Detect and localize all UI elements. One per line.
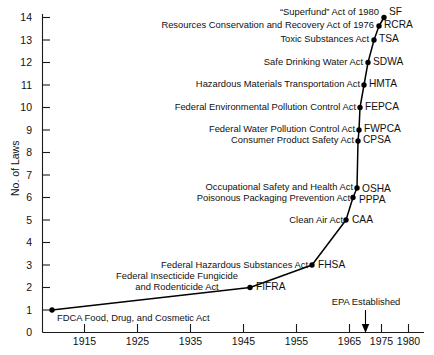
abbrev-rcra: RCRA [384, 20, 413, 31]
y-tick-label-5: 5 [12, 215, 32, 225]
abbrev-fwpca: FWPCA [364, 124, 401, 135]
annotation-fifra-line2: and Rodenticide Act [135, 281, 218, 292]
annotation-fifra: Federal Insecticide Fungicide and Rodent… [110, 271, 244, 292]
y-tick-label-12: 12 [12, 57, 32, 67]
epa-established-arrow [362, 310, 369, 333]
annotation-sdwa: Safe Drinking Water Act [264, 57, 363, 68]
abbrev-tsa: TSA [379, 34, 399, 45]
x-tick-label-1915: 1915 [63, 336, 107, 347]
abbrev-hmta: HMTA [369, 79, 397, 90]
annotation-caa: Clean Air Act [289, 215, 343, 226]
annotation-superfund: “Superfund” Act of 1980 [280, 7, 379, 18]
abbrev-osha: OSHA [362, 184, 391, 195]
y-axis-title: No. of Laws [9, 141, 21, 196]
y-tick-label-2: 2 [12, 282, 32, 292]
annotation-cpsa: Consumer Product Safety Act [231, 135, 354, 146]
x-tick-label-1945: 1945 [222, 336, 266, 347]
annotation-osha: Occupational Safety and Health Act [206, 182, 354, 193]
y-axis-ticks [43, 18, 51, 311]
annotation-tsa: Toxic Substances Act [280, 34, 369, 45]
y-tick-label-0: 0 [12, 327, 32, 337]
x-tick-label-1935: 1935 [169, 336, 213, 347]
y-tick-label-10: 10 [12, 102, 32, 112]
annotation-pppa: Poisonous Packaging Prevention Act [197, 193, 350, 204]
y-tick-label-13: 13 [12, 35, 32, 45]
abbrev-fifra: FIFRA [256, 282, 285, 293]
abbrev-pppa: PPPA [359, 195, 385, 206]
abbrev-caa: CAA [352, 215, 373, 226]
y-tick-label-11: 11 [12, 80, 32, 90]
y-tick-label-9: 9 [12, 125, 32, 135]
x-tick-label-1980: 1980 [387, 336, 431, 347]
x-tick-label-1955: 1955 [275, 336, 319, 347]
annotation-hmta: Hazardous Materials Transportation Act [196, 79, 360, 90]
annotation-epa-established: EPA Established [300, 297, 432, 308]
environmental-laws-line-chart: 14 13 12 11 10 9 8 7 6 5 4 3 2 1 0 No. o… [0, 0, 434, 355]
abbrev-sdwa: SDWA [373, 57, 403, 68]
x-tick-label-1925: 1925 [116, 336, 160, 347]
abbrev-sf: SF [389, 7, 402, 18]
annotation-fifra-line1: Federal Insecticide Fungicide [116, 270, 238, 281]
abbrev-cpsa: CPSA [363, 135, 391, 146]
y-tick-label-1: 1 [12, 305, 32, 315]
abbrev-fhsa: FHSA [318, 260, 345, 271]
annotation-rcra: Resources Conservation and Recovery Act … [161, 20, 374, 31]
annotation-fwpca: Federal Water Pollution Control Act [209, 124, 355, 135]
abbrev-fepca: FEPCA [365, 102, 399, 113]
annotation-fdca: FDCA Food, Drug, and Cosmetic Act [57, 313, 210, 324]
annotation-fepca: Federal Environmental Pollution Control … [175, 102, 356, 113]
annotation-fhsa: Federal Hazardous Substances Act [161, 260, 308, 271]
x-axis-ticks [85, 324, 409, 333]
y-tick-label-3: 3 [12, 260, 32, 270]
y-tick-label-4: 4 [12, 237, 32, 247]
y-tick-label-14: 14 [12, 12, 32, 22]
